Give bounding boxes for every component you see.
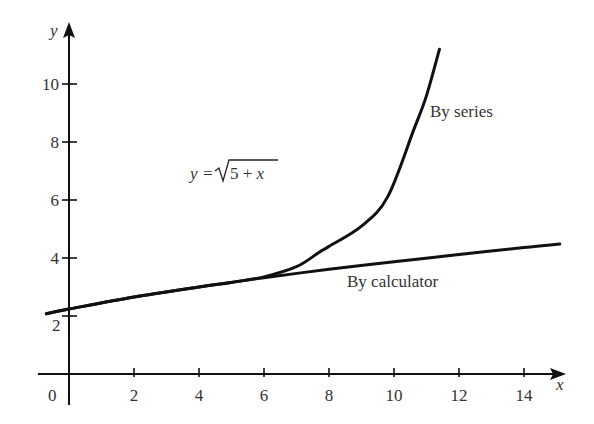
axes: [38, 22, 566, 405]
y-ticks: 246810: [42, 75, 77, 335]
x-tick-label: 10: [386, 386, 403, 405]
x-tick-label: 12: [451, 386, 468, 405]
by-calculator-label: By calculator: [347, 272, 438, 291]
origin-label: 0: [48, 386, 57, 405]
chart: 2468101214 246810 x y 0 By series By cal…: [0, 0, 594, 424]
equation-equals: =: [203, 164, 213, 183]
x-axis-label: x: [555, 375, 564, 394]
by-calculator-curve: [46, 244, 560, 314]
y-tick-label: 2: [52, 316, 61, 335]
x-tick-label: 2: [130, 386, 139, 405]
y-tick-label: 8: [51, 133, 60, 152]
equation-lhs: y: [188, 164, 198, 183]
x-tick-label: 8: [325, 386, 334, 405]
by-series-label: By series: [430, 102, 493, 121]
x-tick-label: 4: [195, 386, 204, 405]
equation-annotation: y = 5 + x: [188, 160, 278, 183]
y-tick-label: 10: [42, 75, 59, 94]
y-tick-label: 6: [51, 191, 60, 210]
y-axis-label: y: [48, 21, 58, 40]
x-tick-label: 14: [516, 386, 534, 405]
x-tick-label: 6: [260, 386, 269, 405]
equation-radicand: 5 + x: [230, 164, 265, 183]
y-tick-label: 4: [51, 249, 60, 268]
